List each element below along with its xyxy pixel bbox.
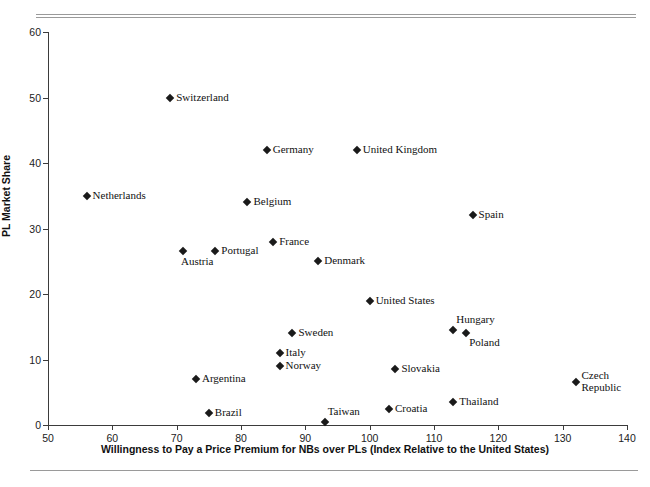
data-point-label: Italy [286, 347, 306, 359]
y-tick-60 [43, 32, 48, 33]
x-tick-100 [370, 425, 371, 430]
y-axis-line [48, 32, 49, 425]
data-point-label: France [279, 236, 309, 248]
y-tick-40 [43, 163, 48, 164]
diamond-marker-icon [275, 362, 283, 370]
x-tick-90 [305, 425, 306, 430]
x-axis-title: Willingness to Pay a Price Premium for N… [0, 443, 650, 455]
diamond-marker-icon [179, 247, 187, 255]
y-axis-title: PL Market Share [0, 155, 12, 237]
diamond-marker-icon [192, 375, 200, 383]
y-tick-10 [43, 360, 48, 361]
diamond-marker-icon [449, 326, 457, 334]
diamond-marker-icon [211, 247, 219, 255]
diamond-marker-icon [468, 211, 476, 219]
data-point-label: Brazil [215, 407, 242, 419]
data-point-label: Austria [181, 256, 213, 268]
data-point-label: Netherlands [93, 190, 146, 202]
diamond-marker-icon [82, 192, 90, 200]
x-tick-80 [241, 425, 242, 430]
data-point-label: Argentina [202, 373, 246, 385]
diamond-marker-icon [314, 257, 322, 265]
data-point-label: Slovakia [401, 363, 440, 375]
data-point-label: United States [376, 295, 435, 307]
top-rule-primary [36, 14, 636, 15]
y-tick-label-10: 10 [29, 354, 41, 366]
y-tick-label-20: 20 [29, 288, 41, 300]
diamond-marker-icon [275, 349, 283, 357]
diamond-marker-icon [243, 198, 251, 206]
x-tick-120 [498, 425, 499, 430]
diamond-marker-icon [262, 146, 270, 154]
x-tick-50 [48, 425, 49, 430]
data-point-label: Croatia [395, 403, 427, 415]
data-point-label: Sweden [298, 327, 333, 339]
data-point-label: Czech Republic [582, 370, 622, 393]
diamond-marker-icon [385, 404, 393, 412]
diamond-marker-icon [166, 93, 174, 101]
data-point-label: Thailand [459, 396, 498, 408]
x-tick-70 [177, 425, 178, 430]
data-point-label: Spain [479, 209, 504, 221]
diamond-marker-icon [449, 398, 457, 406]
diamond-marker-icon [288, 329, 296, 337]
x-tick-140 [627, 425, 628, 430]
y-tick-30 [43, 229, 48, 230]
diamond-marker-icon [353, 146, 361, 154]
diamond-marker-icon [391, 365, 399, 373]
data-point-label: Norway [286, 360, 321, 372]
x-axis-line [48, 425, 627, 426]
diamond-marker-icon [365, 296, 373, 304]
data-point-label: Poland [469, 337, 500, 349]
bottom-rule [30, 470, 638, 471]
data-point-label: Denmark [324, 255, 365, 267]
y-tick-label-40: 40 [29, 157, 41, 169]
y-tick-label-0: 0 [35, 419, 41, 431]
y-tick-50 [43, 98, 48, 99]
scatter-plot-area: 0102030405060 5060708090100110120130140 … [48, 32, 627, 425]
data-point-label: Taiwan [328, 406, 360, 418]
diamond-marker-icon [571, 378, 579, 386]
data-point-label: Belgium [253, 196, 291, 208]
data-point-label: Germany [273, 144, 314, 156]
data-point-label: Portugal [221, 245, 258, 257]
y-tick-label-50: 50 [29, 92, 41, 104]
diamond-marker-icon [205, 409, 213, 417]
x-tick-60 [112, 425, 113, 430]
y-tick-label-30: 30 [29, 223, 41, 235]
x-tick-110 [434, 425, 435, 430]
diamond-marker-icon [269, 237, 277, 245]
top-rule-secondary [36, 17, 636, 18]
y-tick-20 [43, 294, 48, 295]
data-point-label: Switzerland [176, 92, 229, 104]
y-tick-label-60: 60 [29, 26, 41, 38]
data-point-label: Hungary [456, 314, 495, 326]
x-tick-130 [563, 425, 564, 430]
data-point-label: United Kingdom [363, 144, 437, 156]
